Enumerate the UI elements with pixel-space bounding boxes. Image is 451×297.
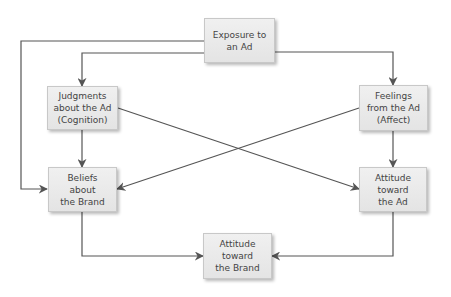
edge-exposure-to-feelings — [274, 52, 393, 85]
node-beliefs: Beliefs about the Brand — [48, 167, 117, 212]
node-feelings: Feelings from the Ad (Affect) — [359, 85, 428, 131]
edge-beliefs-to-attitude-brand — [82, 212, 203, 256]
node-attitude-brand-label: Attitude toward the Brand — [215, 238, 259, 274]
edge-attitude-ad-to-attitude-brand — [272, 212, 393, 256]
node-attitude-brand: Attitude toward the Brand — [203, 233, 272, 279]
node-exposure: Exposure to an Ad — [204, 18, 275, 63]
node-beliefs-label: Beliefs about the Brand — [60, 172, 104, 208]
edge-exposure-to-judgments — [82, 53, 204, 86]
node-attitude-ad: Attitude toward the Ad — [359, 167, 427, 212]
node-attitude-ad-label: Attitude toward the Ad — [375, 172, 411, 208]
node-judgments-label: Judgments about the Ad (Cognition) — [53, 90, 111, 126]
node-exposure-label: Exposure to an Ad — [213, 29, 267, 53]
node-judgments: Judgments about the Ad (Cognition) — [47, 86, 118, 130]
node-feelings-label: Feelings from the Ad (Affect) — [367, 90, 420, 126]
